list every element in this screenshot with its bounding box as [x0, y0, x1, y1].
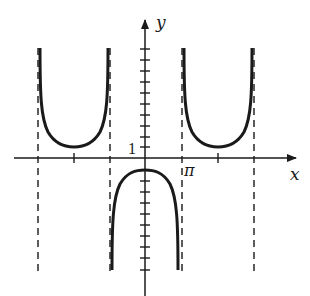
x-axis-label: x: [290, 164, 300, 184]
pi-tick-label: π: [183, 161, 195, 180]
y-axis-label: y: [155, 12, 166, 32]
branch-upper-right: [184, 48, 252, 147]
branch-upper-left: [40, 48, 108, 147]
sec-graph: y x π 1: [0, 0, 310, 296]
one-tick-label: 1: [128, 140, 136, 157]
